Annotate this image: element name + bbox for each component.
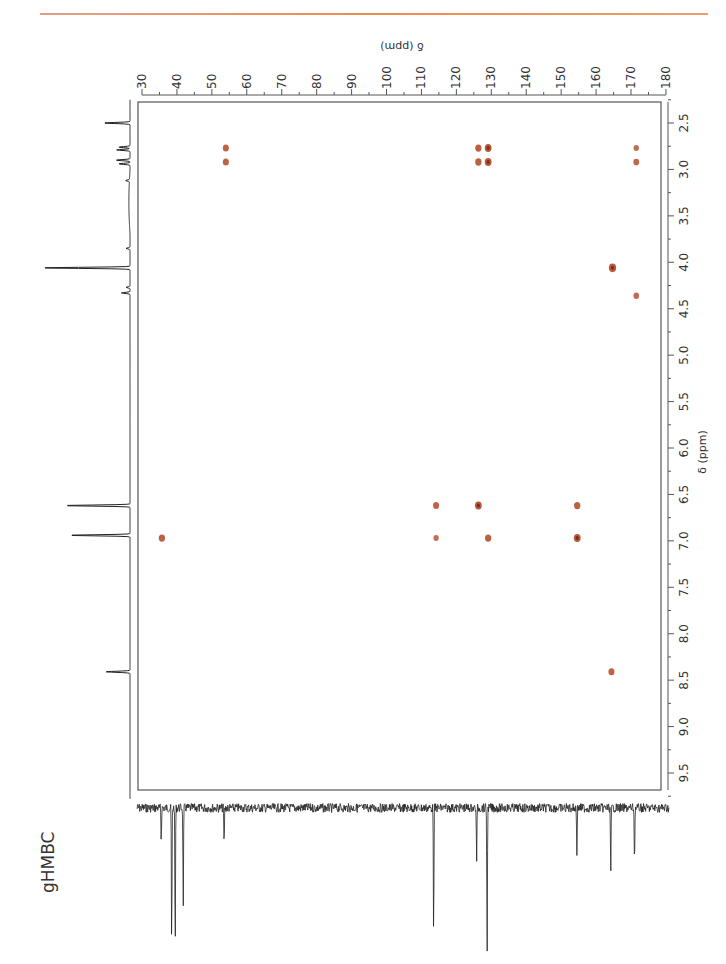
cross-peak [608,668,614,675]
x-axis-title: δ (ppm) [380,40,424,53]
x-tick-label: 140 [519,66,533,89]
cross-peak [475,144,481,151]
y-tick-label: 4.0 [677,253,691,272]
x-tick-label: 40 [170,74,184,89]
y-tick-label: 3.5 [677,206,691,225]
cross-peak-core [611,266,614,270]
y-tick-label: 7.0 [677,531,691,550]
plot-frame [138,102,661,790]
cross-peak [485,534,491,541]
x-tick-label: 80 [310,74,324,89]
cross-peak [223,158,229,165]
x-tick-label: 130 [484,66,498,89]
y-axis-proton: 2.53.03.54.04.55.05.56.06.57.07.58.08.59… [668,100,691,796]
x-tick-label: 170 [624,66,638,89]
cross-peak-core [487,146,490,150]
y-tick-label: 7.5 [677,578,691,597]
x-tick-label: 150 [554,66,568,89]
x-tick-label: 100 [380,66,394,89]
cross-peak [433,535,438,541]
carbon-spectrum-trace [137,804,669,952]
x-tick-label: 110 [414,66,428,89]
x-tick-label: 70 [275,74,289,89]
cross-peak [475,158,481,165]
y-tick-label: 5.0 [677,346,691,365]
x-tick-label: 60 [240,74,254,89]
y-tick-label: 9.0 [677,717,691,736]
x-tick-label: 180 [659,66,673,89]
carbon-projection [137,804,669,952]
x-tick-label: 30 [135,74,149,89]
cross-peak-core [576,536,579,540]
y-tick-label: 6.5 [677,485,691,504]
y-tick-label: 6.0 [677,438,691,457]
cross-peak [574,502,580,509]
cross-peak [633,293,639,299]
y-tick-label: 8.5 [677,671,691,690]
cross-peaks [159,144,639,675]
cross-peak-core [477,504,480,508]
hmbc-chart: 3040506070809010011012013014015016017018… [0,0,726,964]
experiment-label: gHMBC [38,832,58,893]
cross-peak [159,534,165,541]
cross-peak [223,145,229,152]
y-tick-label: 4.5 [677,299,691,318]
x-tick-label: 160 [589,66,603,89]
cross-peak [634,145,639,151]
x-tick-label: 90 [345,74,359,89]
cross-peak [633,159,639,166]
cross-peak [433,502,439,509]
y-axis-title: δ (ppm) [696,430,709,474]
proton-spectrum-trace [45,100,130,799]
x-axis-carbon: 3040506070809010011012013014015016017018… [135,66,673,95]
y-tick-label: 5.5 [677,392,691,411]
x-tick-label: 50 [205,74,219,89]
y-tick-label: 2.5 [677,113,691,132]
proton-projection [45,100,130,799]
y-tick-label: 8.0 [677,624,691,643]
x-tick-label: 120 [449,66,463,89]
y-tick-label: 3.0 [677,160,691,179]
cross-peak-core [487,160,490,164]
y-tick-label: 9.5 [677,763,691,782]
